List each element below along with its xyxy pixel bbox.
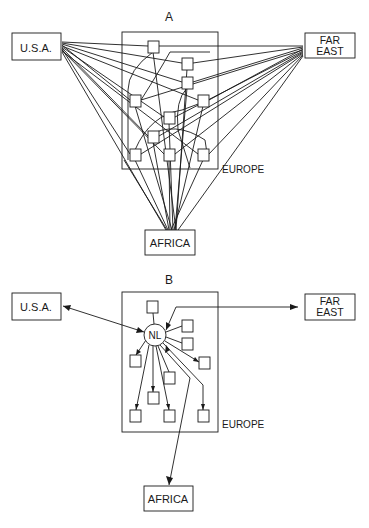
africa-label-a: AFRICA xyxy=(150,237,191,249)
diagram-a-title: A xyxy=(165,10,173,24)
usa-label-a: U.S.A. xyxy=(20,42,52,54)
far-east-links-a xyxy=(141,46,303,230)
diagram-b xyxy=(12,292,355,511)
arrowheads-b xyxy=(63,304,298,485)
africa-label-b: AFRICA xyxy=(148,493,189,505)
europe-label-a: EUROPE xyxy=(222,164,265,175)
far-east-label-b-2: EAST xyxy=(316,306,344,318)
far-east-label-a-2: EAST xyxy=(316,45,344,57)
distribution-diagram: A U.S.A. FAR EAST AFRICA EUROPE B NL U.S… xyxy=(0,0,369,528)
nl-hub-label: NL xyxy=(149,330,162,341)
europe-label-b: EUROPE xyxy=(222,419,265,430)
diagram-a xyxy=(12,32,355,255)
diagram-b-title: B xyxy=(165,273,173,287)
hub-links-b xyxy=(63,306,298,485)
usa-label-b: U.S.A. xyxy=(20,301,52,313)
